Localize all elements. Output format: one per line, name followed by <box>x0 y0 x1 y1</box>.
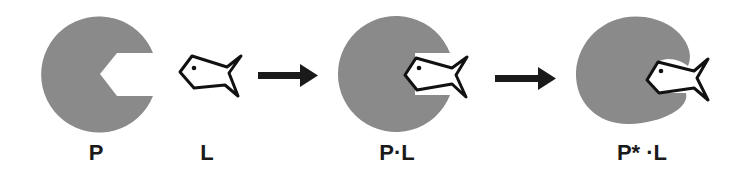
complex-label: P·L <box>372 141 422 165</box>
ligand-label: L <box>196 141 218 165</box>
right-arrow-icon <box>495 67 556 90</box>
protein-shape <box>41 17 153 133</box>
induced-fit-diagram: P L P·L P* ·L <box>0 0 740 174</box>
induced-complex-label: P* ·L <box>610 141 674 165</box>
ligand-fish-icon <box>180 56 241 96</box>
protein-label: P <box>85 141 107 165</box>
right-arrow-icon <box>258 64 318 87</box>
